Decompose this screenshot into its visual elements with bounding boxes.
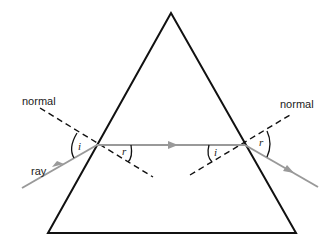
angle-label-i-exit: i bbox=[214, 146, 217, 158]
angle-arc-i-entry bbox=[72, 133, 77, 158]
normal-label-right: normal bbox=[280, 98, 314, 110]
ray-label: ray bbox=[31, 165, 47, 177]
angle-label-i-entry: i bbox=[78, 140, 81, 152]
angle-arc-r-entry bbox=[128, 145, 132, 162]
internal-ray-arrow-icon bbox=[168, 141, 178, 149]
angle-arc-r-exit bbox=[267, 131, 270, 157]
emergent-ray bbox=[245, 145, 318, 187]
angle-label-r-exit: r bbox=[259, 136, 264, 148]
angle-label-r-entry: r bbox=[122, 145, 127, 157]
prism-triangle bbox=[48, 13, 296, 233]
prism-diagram: normal normal ray i r i r bbox=[0, 0, 332, 247]
emergent-ray-arrow-icon bbox=[283, 165, 294, 173]
normal-label-left: normal bbox=[22, 95, 56, 107]
angle-arc-i-exit bbox=[208, 145, 212, 162]
normal-line-left bbox=[40, 108, 153, 177]
